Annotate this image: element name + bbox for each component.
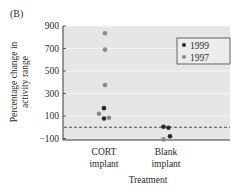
legend-marker-1997 bbox=[182, 55, 186, 59]
data-point-1997 bbox=[97, 111, 102, 116]
data-point-1997 bbox=[103, 31, 108, 36]
x-tick-label-blank-line-1: Blank bbox=[155, 147, 178, 157]
chart: (B) 900700500300100−100 Percentage chang… bbox=[0, 0, 243, 192]
data-point-1997 bbox=[103, 47, 108, 52]
y-tick-label: −100 bbox=[39, 134, 59, 144]
y-tick-label: 700 bbox=[45, 44, 60, 54]
y-tick-label: 100 bbox=[45, 111, 60, 121]
y-axis-label-line-1: Percentage change in bbox=[9, 41, 19, 122]
x-tick-label-cort-line-1: CORT bbox=[92, 147, 117, 157]
y-tick-label: 500 bbox=[45, 66, 60, 76]
data-point-1999 bbox=[102, 106, 107, 111]
data-point-1997 bbox=[107, 115, 112, 120]
x-tick-label-blank-line-2: implant bbox=[151, 159, 180, 169]
legend-marker-1999 bbox=[182, 43, 186, 47]
legend: 1999 1997 bbox=[177, 38, 230, 64]
x-tick-label-cort-line-2: implant bbox=[89, 159, 118, 169]
y-axis-label-line-2: activity range bbox=[20, 56, 30, 108]
data-point-1997 bbox=[103, 83, 108, 88]
data-point-1999 bbox=[102, 116, 107, 121]
y-ticks: 900700500300100−100 bbox=[39, 21, 66, 144]
data-point-1999 bbox=[168, 134, 173, 139]
data-point-1997 bbox=[161, 137, 166, 142]
data-point-1999 bbox=[161, 124, 166, 129]
data-point-1999 bbox=[166, 126, 171, 131]
y-tick-label: 900 bbox=[45, 21, 60, 31]
y-tick-label: 300 bbox=[45, 89, 60, 99]
x-axis-label: Treatment bbox=[129, 175, 168, 185]
panel-label: (B) bbox=[10, 8, 23, 20]
legend-label-1999: 1999 bbox=[190, 41, 209, 51]
x-category-labels: CORT implant Blank implant bbox=[89, 147, 180, 169]
y-axis-label: Percentage change in activity range bbox=[9, 41, 30, 122]
legend-label-1997: 1997 bbox=[190, 53, 209, 63]
